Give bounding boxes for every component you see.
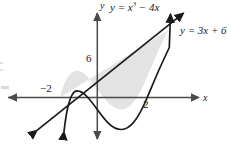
x-axis-label: x — [203, 93, 207, 103]
scan-artifact — [1, 86, 9, 89]
x-tick-label-two: 2 — [143, 99, 149, 110]
x-tick-label-negative-two: −2 — [40, 83, 52, 94]
line-graph — [37, 13, 184, 130]
math-figure: y = x3 − 4x y = 3x + 6 y x 6 −2 2 — [0, 0, 231, 146]
y-intercept-tick-label: 6 — [86, 53, 92, 64]
cubic-equation-label: y = x3 − 4x — [110, 2, 159, 13]
line-equation-label: y = 3x + 6 — [180, 25, 227, 36]
y-axis-label: y — [100, 1, 104, 11]
scan-artifact — [0, 69, 3, 71]
scan-artifact — [0, 62, 3, 64]
graph-canvas — [0, 0, 231, 146]
